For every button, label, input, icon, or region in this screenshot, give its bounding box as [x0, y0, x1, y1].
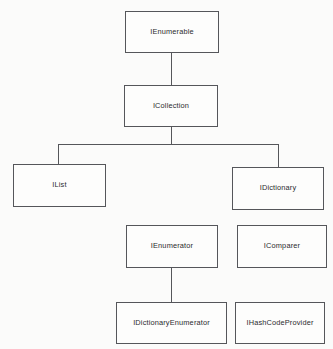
- node-ilist[interactable]: IList: [13, 164, 106, 207]
- node-label: IComparer: [264, 242, 300, 250]
- edge-icollection-stem: [171, 127, 172, 144]
- node-label: IHashCodeProvider: [246, 319, 313, 327]
- node-label: IDictionary: [260, 184, 297, 192]
- node-ihashcodeprovider[interactable]: IHashCodeProvider: [235, 302, 325, 344]
- node-label: ICollection: [153, 102, 189, 110]
- edge-bus-to-idictionary: [278, 144, 279, 167]
- node-idictionaryenumerator[interactable]: IDictionaryEnumerator: [116, 302, 227, 344]
- node-label: IDictionaryEnumerator: [133, 319, 210, 327]
- node-label: IEnumerable: [150, 28, 194, 36]
- node-icomparer[interactable]: IComparer: [237, 225, 327, 268]
- edge-bus-to-ilist: [58, 144, 59, 164]
- diagram-canvas: IEnumerable ICollection IList IDictionar…: [0, 0, 333, 349]
- node-label: IEnumerator: [151, 242, 193, 250]
- edge-icollection-bus: [58, 144, 279, 145]
- node-label: IList: [52, 181, 66, 189]
- node-icollection[interactable]: ICollection: [124, 85, 218, 127]
- node-ienumerable[interactable]: IEnumerable: [125, 11, 219, 53]
- node-idictionary[interactable]: IDictionary: [232, 167, 324, 210]
- node-ienumerator[interactable]: IEnumerator: [126, 225, 218, 268]
- edge-ienumerable-to-icollection: [171, 53, 172, 85]
- edge-ienumerator-to-idictionaryenumerator: [171, 268, 172, 302]
